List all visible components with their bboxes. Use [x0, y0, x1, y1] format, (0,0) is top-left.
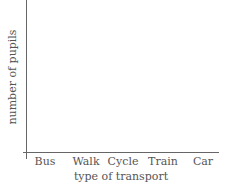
- x-tick-label-walk: Walk: [72, 155, 99, 168]
- y-axis-label: number of pupils: [6, 30, 19, 125]
- x-axis-label: type of transport: [74, 170, 168, 183]
- y-axis-line: [26, 0, 27, 159]
- x-tick-label-cycle: Cycle: [108, 155, 139, 168]
- bar-chart: number of pupils Bus Walk Cycle Train Ca…: [0, 0, 227, 188]
- x-axis-line: [23, 152, 219, 153]
- x-tick-label-car: Car: [193, 155, 213, 168]
- x-tick-label-train: Train: [148, 155, 178, 168]
- x-tick-label-bus: Bus: [35, 155, 56, 168]
